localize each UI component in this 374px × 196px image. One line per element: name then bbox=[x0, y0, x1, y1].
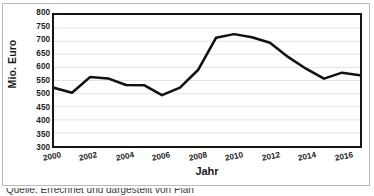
x-tick-label: 2014 bbox=[297, 150, 317, 162]
y-tick-label: 600 bbox=[4, 63, 50, 71]
y-tick-label: 350 bbox=[4, 131, 50, 139]
chart-figure: Mio. Euro 800750700650600550500450400350… bbox=[0, 0, 374, 196]
x-tick-label: 2010 bbox=[225, 150, 245, 162]
y-tick-label: 650 bbox=[4, 50, 50, 58]
y-tick-label: 500 bbox=[4, 90, 50, 98]
y-axis-tick-labels: 800750700650600550500450400350300 bbox=[0, 13, 50, 148]
caption-strip: Quelle: Errechnet und dargestellt von Pl… bbox=[6, 188, 366, 196]
x-tick-label: 2004 bbox=[115, 150, 135, 162]
y-tick-label: 400 bbox=[4, 117, 50, 125]
x-axis-tick-labels: 200020022004200620082010201220142016 bbox=[52, 148, 362, 166]
x-tick-label: 2000 bbox=[42, 150, 62, 162]
y-tick-label: 300 bbox=[4, 144, 50, 152]
y-tick-label: 700 bbox=[4, 36, 50, 44]
y-tick-label: 800 bbox=[4, 9, 50, 17]
x-tick-label: 2012 bbox=[261, 150, 281, 162]
y-tick-label: 550 bbox=[4, 77, 50, 85]
x-axis-title: Jahr bbox=[52, 165, 362, 177]
y-tick-label: 450 bbox=[4, 104, 50, 112]
x-tick-label: 2008 bbox=[188, 150, 208, 162]
plot-area bbox=[52, 13, 362, 148]
y-tick-label: 750 bbox=[4, 23, 50, 31]
x-tick-label: 2016 bbox=[334, 150, 354, 162]
x-tick-label: 2006 bbox=[152, 150, 172, 162]
caption-text: Quelle: Errechnet und dargestellt von Pl… bbox=[6, 188, 194, 195]
x-tick-label: 2002 bbox=[79, 150, 99, 162]
data-series-line bbox=[54, 15, 360, 146]
